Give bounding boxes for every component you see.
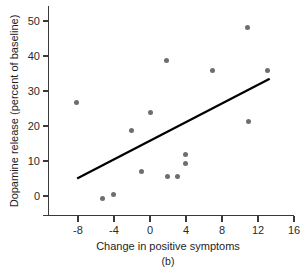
x-tick-0 — [149, 216, 150, 222]
data-point — [265, 68, 270, 73]
x-tick-8 — [221, 216, 222, 222]
y-tick-50 — [43, 20, 49, 21]
y-tick-30 — [43, 90, 49, 91]
x-tick-12 — [257, 216, 258, 222]
x-tick-label-4: 4 — [171, 224, 201, 236]
x-tick-label--8: -8 — [63, 224, 93, 236]
x-axis-label: Change in positive symptoms — [40, 240, 296, 252]
x-tick-label-12: 12 — [243, 224, 273, 236]
data-point — [74, 100, 79, 105]
x-tick-16 — [293, 216, 294, 222]
y-axis-line — [48, 6, 49, 216]
data-point — [175, 174, 180, 179]
data-point — [100, 196, 105, 201]
data-point — [210, 68, 215, 73]
data-point — [183, 161, 188, 166]
y-tick-20 — [43, 125, 49, 126]
data-point — [164, 58, 169, 63]
x-tick-label-16: 16 — [279, 224, 304, 236]
x-tick-label-8: 8 — [207, 224, 237, 236]
data-point — [139, 169, 144, 174]
figure-caption: (b) — [40, 255, 296, 267]
plot-area: 01020304050 -8-40481216 Dopamine release… — [0, 0, 304, 270]
data-point — [245, 25, 250, 30]
x-tick--4 — [113, 216, 114, 222]
y-tick-10 — [43, 160, 49, 161]
x-axis-line — [43, 215, 294, 216]
x-tick-label--4: -4 — [99, 224, 129, 236]
scatter-plot-figure: 01020304050 -8-40481216 Dopamine release… — [0, 0, 304, 270]
y-tick-0 — [43, 195, 49, 196]
data-point — [165, 174, 170, 179]
data-point — [246, 119, 251, 124]
data-point — [129, 128, 134, 133]
data-point — [183, 152, 188, 157]
x-tick--8 — [77, 216, 78, 222]
x-tick-label-0: 0 — [135, 224, 165, 236]
x-tick-4 — [185, 216, 186, 222]
data-point — [148, 110, 153, 115]
y-tick-40 — [43, 55, 49, 56]
y-axis-label: Dopamine release (percent of baseline) — [8, 11, 20, 211]
data-point — [111, 192, 116, 197]
